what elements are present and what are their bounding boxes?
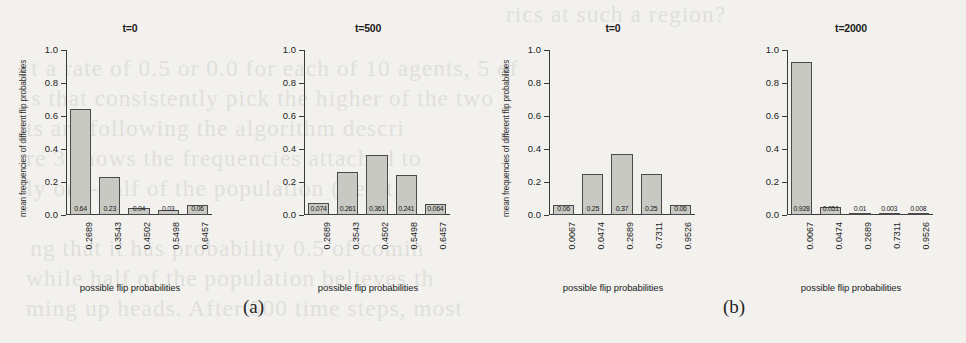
x-axis-tick-label: 0.0067 — [806, 222, 815, 250]
panel-title: t=0 — [497, 22, 729, 34]
x-axis-title: possible flip probabilities — [252, 282, 484, 293]
y-axis-tick-label: 0.6 — [283, 111, 296, 121]
y-axis-tick — [61, 50, 66, 51]
bar-group: 0.003 — [879, 50, 900, 215]
x-axis-tick-label: 0.4502 — [381, 222, 390, 250]
y-axis-tick — [61, 116, 66, 117]
bar-group: 0.261 — [337, 50, 358, 215]
y-axis-tick — [544, 83, 549, 84]
x-axis-tick-label: 0.6457 — [201, 222, 210, 250]
plot-area: 0.00.20.40.60.81.00.060.00670.250.04740.… — [549, 50, 695, 215]
y-axis-title: mean frequencies of different flip proba… — [501, 60, 511, 217]
bar-value-label: 0.25 — [582, 205, 603, 212]
y-axis-tick-label: 0.2 — [528, 177, 541, 187]
y-axis-tick — [61, 182, 66, 183]
x-axis-tick-label: 0.2689 — [323, 222, 332, 250]
bar — [908, 213, 929, 215]
panel-t0-b: t=0mean frequencies of different flip pr… — [497, 0, 729, 343]
bar-value-label: 0.008 — [908, 205, 929, 212]
x-axis-tick-label: 0.3543 — [114, 222, 123, 250]
y-axis-tick-label: 0.2 — [283, 177, 296, 187]
caption-a: (a) — [243, 296, 264, 318]
y-axis-tick-label: 0.6 — [528, 111, 541, 121]
bar-group: 0.03 — [158, 50, 179, 215]
y-axis-tick — [782, 149, 787, 150]
y-axis-tick — [299, 149, 304, 150]
bar-value-label: 0.06 — [187, 205, 208, 212]
x-axis-title: possible flip probabilities — [735, 282, 966, 293]
bar-value-label: 0.241 — [396, 205, 417, 212]
bar-group: 0.361 — [366, 50, 387, 215]
y-axis-tick-label: 0.2 — [766, 177, 779, 187]
x-axis-tick-label: 0.2689 — [85, 222, 94, 250]
bar-group: 0.01 — [849, 50, 870, 215]
bar-group: 0.06 — [553, 50, 574, 215]
y-axis-tick-label: 0.0 — [766, 210, 779, 220]
y-axis-tick — [299, 50, 304, 51]
y-axis-line — [787, 50, 788, 215]
x-axis-tick-label: 0.2689 — [864, 222, 873, 250]
panel-title: t=0 — [14, 22, 246, 34]
y-axis-tick-label: 0.8 — [766, 78, 779, 88]
y-axis-tick-label: 0.4 — [528, 144, 541, 154]
bar — [70, 109, 91, 215]
y-axis-tick-label: 1.0 — [528, 45, 541, 55]
y-axis-line — [304, 50, 305, 215]
y-axis-tick — [299, 116, 304, 117]
y-axis-tick-label: 1.0 — [283, 45, 296, 55]
y-axis-title: mean frequencies of different flip proba… — [18, 60, 28, 217]
bar-value-label: 0.928 — [791, 205, 812, 212]
bar — [791, 62, 812, 215]
bar-group: 0.23 — [99, 50, 120, 215]
plot-area: 0.00.20.40.60.81.00.640.26890.230.35430.… — [66, 50, 212, 215]
y-axis-tick — [544, 50, 549, 51]
x-axis-tick-label: 0.6457 — [439, 222, 448, 250]
y-axis-tick-label: 1.0 — [45, 45, 58, 55]
bar-value-label: 0.37 — [611, 205, 632, 212]
bar-value-label: 0.06 — [670, 205, 691, 212]
y-axis-line — [549, 50, 550, 215]
bar-group: 0.25 — [641, 50, 662, 215]
x-axis-tick-label: 0.5498 — [172, 222, 181, 250]
bar-group: 0.37 — [611, 50, 632, 215]
x-axis-title: possible flip probabilities — [14, 282, 246, 293]
panel-title: t=2000 — [735, 22, 966, 34]
y-axis-tick — [544, 182, 549, 183]
bar-value-label: 0.261 — [337, 205, 358, 212]
bar-value-label: 0.06 — [553, 205, 574, 212]
bar-group: 0.051 — [820, 50, 841, 215]
x-axis-tick-label: 0.3543 — [352, 222, 361, 250]
caption-b: (b) — [723, 296, 745, 318]
x-axis-tick-label: 0.0474 — [597, 222, 606, 250]
bar-group: 0.064 — [425, 50, 446, 215]
bar-group: 0.928 — [791, 50, 812, 215]
bar-value-label: 0.01 — [849, 205, 870, 212]
panel-title: t=500 — [252, 22, 484, 34]
x-axis-tick-label: 0.5498 — [410, 222, 419, 250]
y-axis-tick-label: 0.0 — [528, 210, 541, 220]
x-axis-tick-label: 0.4502 — [143, 222, 152, 250]
bar-group: 0.241 — [396, 50, 417, 215]
x-axis-tick-label: 0.7311 — [655, 222, 664, 249]
bar-group: 0.06 — [187, 50, 208, 215]
y-axis-tick — [782, 215, 787, 216]
x-axis-tick-label: 0.7311 — [893, 222, 902, 249]
y-axis-tick-label: 0.2 — [45, 177, 58, 187]
panel-t500: t=5000.00.20.40.60.81.00.0740.26890.2610… — [252, 0, 484, 343]
x-axis-tick-label: 0.0474 — [835, 222, 844, 250]
y-axis-tick — [782, 83, 787, 84]
x-axis-title: possible flip probabilities — [497, 282, 729, 293]
y-axis-tick-label: 0.4 — [283, 144, 296, 154]
y-axis-tick — [61, 149, 66, 150]
y-axis-tick-label: 0.4 — [766, 144, 779, 154]
y-axis-tick — [61, 215, 66, 216]
y-axis-tick — [544, 215, 549, 216]
y-axis-tick-label: 0.8 — [528, 78, 541, 88]
bar — [879, 213, 900, 215]
bar — [849, 213, 870, 215]
bar-value-label: 0.361 — [366, 205, 387, 212]
y-axis-tick-label: 0.6 — [766, 111, 779, 121]
plot-area: 0.00.20.40.60.81.00.0740.26890.2610.3543… — [304, 50, 450, 215]
y-axis-tick — [782, 50, 787, 51]
y-axis-tick — [544, 116, 549, 117]
